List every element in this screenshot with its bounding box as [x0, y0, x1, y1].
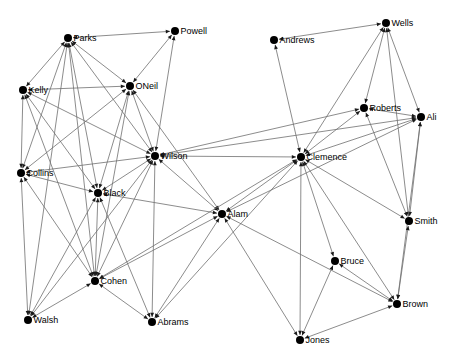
edge-arrowhead [213, 211, 217, 215]
graph-edge-ONeil-Collins [25, 89, 126, 170]
node-dot-parks[interactable] [64, 34, 72, 42]
graph-edge-Smith-Brown [398, 226, 409, 299]
graph-edge-Clemence-Andrews [275, 45, 300, 152]
edge-arrowhead [73, 36, 77, 40]
node-dot-walsh[interactable] [24, 316, 32, 324]
edge-arrowhead [102, 186, 107, 190]
edge-arrowhead [377, 23, 381, 27]
edge-arrowhead [26, 170, 30, 174]
edge-arrowhead [225, 218, 229, 223]
edge-arrowhead [103, 193, 107, 197]
graph-edge-Kelly-Collins [21, 95, 23, 168]
node-label-cohen: Cohen [101, 276, 128, 286]
node-dot-oneil[interactable] [126, 82, 134, 90]
edge-arrowhead [292, 155, 296, 159]
edge-arrowhead [339, 264, 344, 268]
edge-arrowhead [369, 108, 373, 112]
graph-node-oneil: ONeil [126, 81, 158, 91]
edge-arrowhead [122, 79, 126, 83]
edge-arrowhead [143, 315, 148, 319]
graph-edge-Wells-Ali [388, 28, 420, 113]
graph-edge-Wilson-Clemence [160, 156, 296, 157]
network-canvas: ParksPowellWellsAndrewsONeilKellyRoberts… [0, 0, 451, 358]
edge-arrowhead [146, 155, 150, 159]
node-label-brown: Brown [403, 299, 429, 309]
node-dot-roberts[interactable] [360, 104, 368, 112]
node-dot-andrews[interactable] [270, 36, 278, 44]
edge-arrowhead [297, 148, 301, 153]
graph-edge-Bruce-Brown [339, 264, 393, 301]
node-dot-cohen[interactable] [91, 277, 99, 285]
graph-node-ali: Ali [417, 112, 437, 122]
edge-layer [19, 23, 422, 339]
node-dot-ali[interactable] [417, 113, 425, 121]
graph-edge-Wilson-Abrams [152, 161, 155, 317]
edge-arrowhead [412, 114, 416, 118]
node-dot-kelly[interactable] [19, 86, 27, 94]
edge-arrowhead [94, 184, 98, 188]
edge-arrowhead [20, 178, 24, 182]
graph-edge-Parks-Cohen [69, 43, 95, 276]
edge-arrowhead [388, 305, 393, 309]
graph-edge-Roberts-Ali [369, 109, 416, 116]
graph-edge-Wilson-Walsh [31, 160, 152, 316]
edge-arrowhead [274, 45, 278, 50]
graph-node-walsh: Walsh [24, 315, 58, 325]
node-label-powell: Powell [181, 26, 208, 36]
node-dot-smith[interactable] [405, 217, 413, 225]
graph-edge-Black-Abrams [100, 198, 150, 318]
edge-arrowhead [24, 177, 28, 182]
graph-edge-ONeil-Alam [133, 90, 219, 210]
node-dot-brown[interactable] [393, 300, 401, 308]
graph-edge-Collins-Wilson [26, 157, 150, 173]
node-dot-wells[interactable] [382, 19, 390, 27]
node-dot-alam[interactable] [218, 210, 226, 218]
graph-edge-Parks-Powell [73, 31, 170, 37]
graph-edge-Cohen-Clemence [99, 160, 296, 279]
graph-edge-Bruce-Jones [302, 266, 333, 336]
edge-arrowhead [305, 335, 310, 339]
edge-arrowhead [279, 37, 283, 41]
graph-node-jones: Jones [296, 335, 330, 345]
graph-node-bruce: Bruce [331, 256, 364, 266]
graph-node-alam: Alam [218, 209, 248, 219]
graph-edge-ONeil-Wilson [132, 91, 154, 152]
edge-arrowhead [91, 184, 95, 189]
graph-node-cohen: Cohen [91, 276, 127, 286]
graph-edge-Wilson-Ali [160, 118, 416, 156]
graph-edge-Cohen-Walsh [32, 284, 90, 318]
graph-edge-Wells-Roberts [365, 28, 384, 103]
node-dot-powell[interactable] [171, 27, 179, 35]
graph-edge-Clemence-Smith [305, 160, 404, 219]
node-label-oneil: ONeil [136, 81, 159, 91]
edge-arrowhead [153, 161, 157, 165]
graph-edge-Parks-Wilson [71, 42, 152, 152]
graph-edge-Powell-ONeil [133, 35, 172, 82]
node-dot-black[interactable] [94, 189, 102, 197]
graph-edge-Black-Cohen [95, 198, 98, 276]
node-label-bruce: Bruce [341, 256, 365, 266]
edge-arrowhead [215, 218, 219, 223]
graph-node-smith: Smith [405, 216, 438, 226]
node-dot-bruce[interactable] [331, 257, 339, 265]
graph-node-kelly: Kelly [19, 85, 49, 95]
edge-arrowhead [355, 108, 360, 112]
graph-edge-Collins-Cohen [24, 177, 92, 277]
edge-arrowhead [166, 30, 170, 34]
edge-arrowhead [150, 313, 154, 317]
edge-arrowhead [28, 88, 32, 92]
node-dot-abrams[interactable] [148, 318, 156, 326]
node-dot-wilson[interactable] [151, 152, 159, 160]
graph-edge-Black-Alam [103, 194, 217, 213]
node-dot-jones[interactable] [296, 336, 304, 344]
graph-edge-Jones-Brown [305, 306, 393, 339]
graph-edge-Collins-Walsh [21, 178, 28, 315]
node-dot-clemence[interactable] [297, 153, 305, 161]
graph-edge-Powell-Wilson [156, 36, 174, 151]
node-dot-collins[interactable] [17, 169, 25, 177]
graph-edge-Cohen-Abrams [99, 284, 148, 319]
node-label-wells: Wells [392, 18, 414, 28]
graph-edge-Alam-Jones [225, 218, 298, 335]
graph-node-andrews: Andrews [270, 35, 315, 45]
graph-edge-Abrams-Alam [155, 218, 220, 318]
